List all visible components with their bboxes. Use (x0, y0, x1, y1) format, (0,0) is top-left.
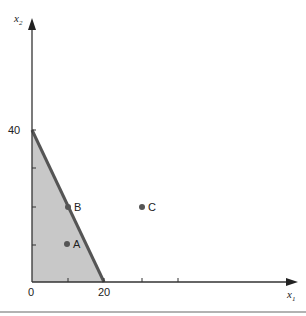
y-axis-arrow-icon (28, 18, 36, 30)
y-axis-label: x2 (13, 12, 23, 27)
x-axis-arrow-icon (286, 278, 298, 286)
x-tick-0: 0 (28, 286, 34, 298)
point-a-marker (64, 241, 70, 247)
feasible-region-diagram: 0 20 40 x2 x1 A B C (0, 0, 306, 316)
x-tick-20: 20 (98, 286, 110, 298)
point-b-marker (65, 204, 71, 210)
point-c-marker (139, 204, 145, 210)
y-tick-40: 40 (8, 124, 20, 136)
point-a-label: A (73, 238, 81, 250)
point-b-label: B (74, 201, 81, 213)
point-c-label: C (148, 201, 156, 213)
x-axis-label: x1 (286, 288, 295, 303)
